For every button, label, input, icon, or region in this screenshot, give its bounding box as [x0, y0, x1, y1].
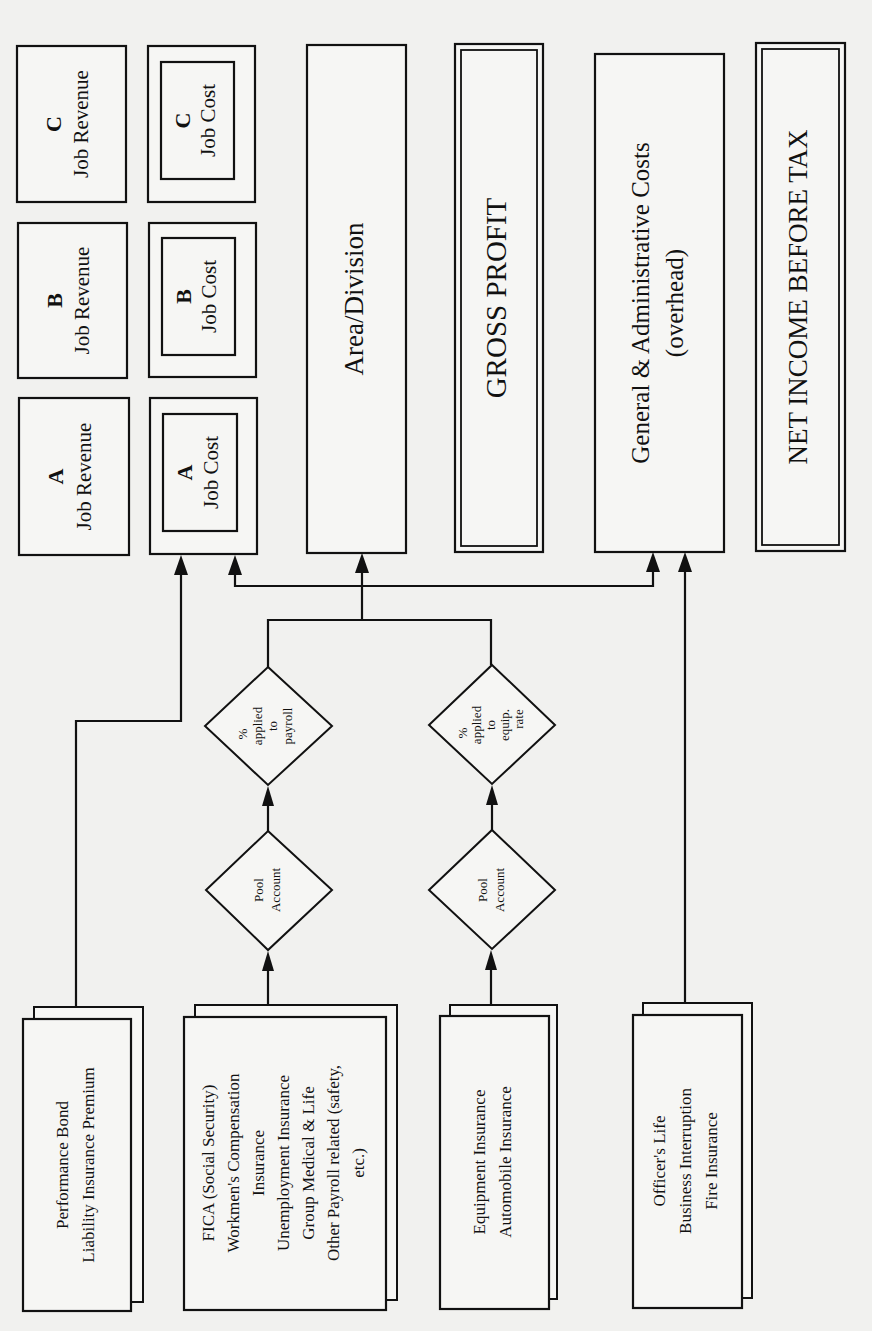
job-cost-c-letter: C [170, 113, 195, 129]
source-text: FICA (Social Security) [199, 1085, 218, 1242]
net-income-box: NET INCOME BEFORE TAX [756, 43, 845, 551]
job-revenue-b-letter: B [42, 293, 67, 308]
diamond-text: applied [469, 705, 484, 744]
source-text: Automobile Insurance [496, 1086, 515, 1238]
connectors [76, 552, 692, 1007]
source-text: Fire Insurance [702, 1112, 721, 1210]
officer-source-box: Officer's Life Business Interruption Fir… [633, 1003, 752, 1308]
performance-to-job-cost-line [76, 570, 181, 1007]
pool-account-equip-diamond: Pool Account [429, 830, 555, 949]
diamond-text: Pool [251, 878, 266, 902]
job-cost-b-label: Job Cost [197, 260, 221, 333]
diamond-text: rate [511, 709, 526, 729]
diamond-text: to [483, 720, 498, 730]
job-revenue-a-letter: A [43, 468, 68, 484]
diamond-text: to [265, 721, 280, 731]
source-text: Business Interruption [676, 1088, 695, 1234]
source-text: Unemployment Insurance [274, 1075, 293, 1251]
allocation-bus-line [235, 570, 653, 586]
job-revenue-c-box: C Job Revenue [17, 46, 126, 202]
source-text: Other Payroll related (safety, [324, 1065, 343, 1261]
ga-costs-sublabel: (overhead) [661, 249, 689, 357]
equipment-source-box: Equipment Insurance Automobile Insurance [440, 1005, 557, 1309]
area-division-box: Area/Division [307, 45, 406, 553]
job-cost-a-label: Job Cost [199, 436, 223, 509]
diamond-text: payroll [280, 707, 295, 744]
payroll-source-box: FICA (Social Security) Workmen's Compens… [184, 1005, 397, 1310]
area-division-label: Area/Division [339, 222, 369, 375]
diamond-text: applied [250, 706, 265, 745]
arrow-up-icon [678, 552, 692, 572]
source-text: Liability Insurance Premium [79, 1067, 98, 1262]
source-text: Performance Bond [53, 1101, 72, 1229]
pct-applied-payroll-diamond: % applied to payroll [205, 667, 332, 785]
source-text: Equipment Insurance [470, 1090, 489, 1235]
source-text: Group Medical & Life [299, 1086, 318, 1239]
job-cost-b-letter: B [171, 289, 196, 304]
job-cost-a-letter: A [172, 464, 197, 480]
diamond-text: % [455, 727, 470, 738]
job-revenue-b-box: B Job Revenue [18, 223, 127, 378]
job-cost-c-box: C Job Cost [148, 46, 255, 202]
arrow-up-icon [174, 555, 188, 575]
diamond-text: Account [268, 868, 283, 912]
source-text: Officer's Life [650, 1115, 669, 1206]
job-revenue-a-label: Job Revenue [72, 423, 96, 531]
arrow-up-icon [355, 553, 369, 573]
arrow-up-icon [262, 786, 274, 806]
job-revenue-c-letter: C [41, 116, 66, 132]
arrow-up-icon [262, 951, 274, 971]
diamond-text: % [235, 728, 250, 739]
arrow-up-icon [485, 950, 497, 970]
gross-profit-label: GROSS PROFIT [480, 197, 512, 398]
job-revenue-b-label: Job Revenue [70, 247, 94, 355]
pct-applied-equip-diamond: % applied to equip. rate [429, 665, 555, 784]
job-revenue-c-label: Job Revenue [69, 70, 93, 178]
source-text: etc.) [349, 1148, 368, 1178]
gross-profit-box: GROSS PROFIT [455, 44, 543, 552]
diamond-text: Pool [475, 878, 490, 902]
diamond-text: equip. [497, 709, 512, 741]
job-revenue-a-box: A Job Revenue [19, 398, 129, 555]
net-income-label: NET INCOME BEFORE TAX [783, 129, 813, 465]
source-text: Insurance [249, 1130, 268, 1196]
job-cost-a-box: A Job Cost [150, 398, 257, 554]
diamond-merge-line [268, 620, 491, 667]
source-text: Workmen's Compensation [224, 1073, 243, 1252]
job-cost-c-label: Job Cost [196, 84, 220, 157]
arrow-up-icon [486, 785, 498, 805]
performance-bond-source-box: Performance Bond Liability Insurance Pre… [23, 1007, 143, 1311]
insurance-cost-allocation-diagram: C Job Revenue B Job Revenue A Job Revenu… [0, 0, 872, 1331]
arrow-up-icon [228, 555, 242, 575]
ga-costs-label: General & Administrative Costs [627, 142, 654, 463]
ga-costs-box: General & Administrative Costs (overhead… [595, 54, 724, 552]
arrow-up-icon [646, 552, 660, 572]
diamond-text: Account [492, 868, 507, 912]
pool-account-payroll-diamond: Pool Account [206, 831, 332, 950]
job-cost-b-box: B Job Cost [149, 223, 256, 377]
